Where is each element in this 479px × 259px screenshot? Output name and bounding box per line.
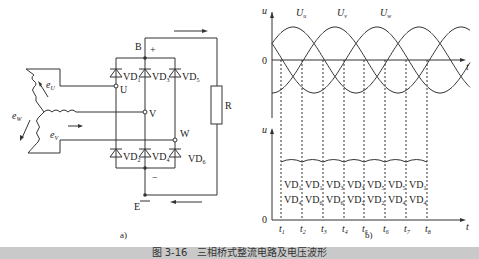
conducting-diode-label: VD2	[347, 194, 364, 206]
emf-u-label: eU	[46, 79, 55, 91]
figure-caption: 图 3-16 三相桥式整流电路及电压波形	[0, 244, 479, 259]
t-axis-label-bottom: t	[466, 221, 469, 232]
conducting-diode-label: VD2	[367, 194, 384, 206]
plus-sign: +	[150, 44, 156, 55]
emf-w-label: eW	[12, 110, 22, 122]
resistor	[211, 86, 222, 124]
subfigure-a-label: a)	[120, 230, 127, 240]
vd6-label: VD6	[188, 153, 205, 165]
node-e-label: E	[134, 201, 140, 212]
circuit-diagram	[22, 31, 222, 202]
t-axis-label-top: t	[466, 61, 469, 72]
time-mark-label: t3	[321, 223, 327, 235]
vd2-label: VD2	[123, 151, 140, 163]
emf-v-label: eV	[50, 129, 59, 141]
terminal-u-label: U	[120, 84, 128, 95]
conducting-diode-label: VD4	[388, 194, 405, 206]
conducting-diode-label: VD4	[409, 194, 426, 206]
series-uu-label: Uu	[296, 7, 306, 19]
minus-sign: −	[152, 172, 158, 183]
terminal-w-label: W	[180, 128, 190, 139]
resistor-label: R	[225, 100, 232, 111]
conducting-diode-label: VD1	[284, 179, 301, 191]
conducting-diode-label: VD3	[326, 179, 343, 191]
time-mark-label: t1	[279, 223, 285, 235]
winding-u	[26, 69, 44, 112]
vd3-label: VD3	[152, 71, 169, 83]
series-uw-label: Uw	[380, 7, 391, 19]
winding-v	[44, 110, 80, 112]
time-mark-label: t6	[383, 223, 389, 235]
series-uv-label: Uv	[337, 7, 347, 19]
time-mark-label: t5	[362, 223, 368, 235]
origin-label-bottom: 0	[262, 214, 267, 225]
conducting-diode-label: VD3	[347, 179, 364, 191]
vd1-label: VD1	[123, 71, 140, 83]
wire-u	[26, 69, 60, 86]
time-mark-label: t7	[404, 223, 411, 235]
conducting-diode-label: VD1	[305, 179, 322, 191]
conducting-diode-label: VD5	[388, 179, 405, 191]
time-mark-label: t2	[300, 223, 306, 235]
conducting-diode-label: VD5	[367, 179, 384, 191]
u-axis-label-bottom: u	[262, 124, 267, 135]
time-mark-label: t8	[425, 223, 431, 235]
vd5-label: VD5	[182, 71, 199, 83]
vd4-label: VD4	[152, 151, 169, 163]
conducting-diode-label: VD6	[326, 194, 343, 206]
output-ripple-curve	[281, 160, 427, 163]
winding-w	[28, 112, 44, 153]
conducting-diode-label: VD4	[284, 194, 301, 206]
node-b-label: B	[135, 41, 142, 52]
waveform-bottom	[272, 60, 460, 220]
conducting-diode-label: VD6	[305, 194, 322, 206]
terminal-v-label: V	[149, 108, 157, 119]
u-axis-label-top: u	[262, 5, 267, 16]
circuit-markers	[20, 29, 208, 204]
conducting-diode-label: VD1	[409, 179, 426, 191]
origin-label-top: 0	[262, 55, 267, 66]
time-mark-label: t4	[342, 223, 348, 235]
